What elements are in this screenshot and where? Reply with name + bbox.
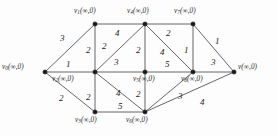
node-label-v8: v8(∞,0) (181, 76, 203, 83)
node-label-v0: v0(∞,0) (2, 64, 24, 71)
edge-weight-v2-v3: 2 (86, 93, 91, 102)
node-label-state: (∞,0) (58, 75, 74, 83)
graph-node-v (232, 70, 236, 74)
edge-weight-v3-v6: 5 (118, 102, 123, 111)
node-label-v5: v5(∞,0) (133, 76, 155, 83)
edge-weight-v8-v: 3 (211, 58, 216, 67)
node-label-state: (∞,0) (139, 75, 155, 83)
node-label-state: (∞,0) (8, 63, 24, 71)
node-label-state: (∞,0) (187, 75, 203, 83)
graph-node-v3 (93, 110, 97, 114)
nodes-group (43, 22, 236, 114)
edge-weight-v2-v4: 3 (114, 58, 119, 67)
edge-weight-v2-v6: 4 (116, 89, 121, 98)
graph-node-v8 (191, 70, 195, 74)
edge-weight-v6-v: 4 (200, 98, 205, 107)
node-label-v7: v7(∞,0) (174, 8, 196, 15)
edge-weight-v1-v2: 2 (86, 46, 91, 55)
edge-weight-v7-v: 1 (215, 37, 220, 46)
node-label-state: (∞,0) (80, 7, 96, 15)
edge-weight-v4-v7: 2 (166, 29, 171, 38)
node-label-state: (∞,0) (81, 116, 97, 124)
node-label-state: (∞,0) (133, 7, 149, 15)
edge-weight-v4-v5: 2 (136, 46, 141, 55)
edge-weight-v5-v6: 2 (136, 90, 141, 99)
node-label-v6: v6(∞,0) (126, 117, 148, 124)
graph-node-v2 (93, 70, 97, 74)
edge-weight-v2-v1: 2 (102, 42, 107, 51)
node-label-v1: v1(∞,0) (74, 8, 96, 15)
graph-node-v7 (191, 22, 195, 26)
edge-weight-v5-v8: 5 (165, 60, 170, 69)
graph-figure: v0(∞,0)v1(∞,0)v2(∞,0)v3(∞,0)v4(∞,0)v5(∞,… (0, 0, 277, 136)
graph-node-v1 (93, 22, 97, 26)
node-label-v4: v4(∞,0) (127, 8, 149, 15)
graph-node-v6 (143, 110, 147, 114)
node-label-v3: v3(∞,0) (75, 117, 97, 124)
edge-weight-v0-v1: 3 (60, 34, 65, 43)
edge-weight-v1-v4: 4 (115, 29, 120, 38)
node-label-state: (∞,0) (241, 63, 257, 71)
edge-weight-v4-v8: 4 (160, 48, 165, 57)
node-label-state: (∞,0) (180, 7, 196, 15)
graph-node-v0 (43, 70, 47, 74)
node-label-state: (∞,0) (132, 116, 148, 124)
edge-weight-v0-v3: 2 (59, 94, 64, 103)
node-label-v: v(∞,0) (238, 64, 257, 71)
edge-weight-v0-v2: 1 (66, 60, 71, 69)
graph-node-v4 (143, 22, 147, 26)
edge-weight-v6-v8: 3 (178, 92, 183, 101)
edge-weight-v7-v8: 1 (184, 46, 189, 55)
graph-node-v5 (143, 70, 147, 74)
node-label-v2: v2(∞,0) (52, 76, 74, 83)
